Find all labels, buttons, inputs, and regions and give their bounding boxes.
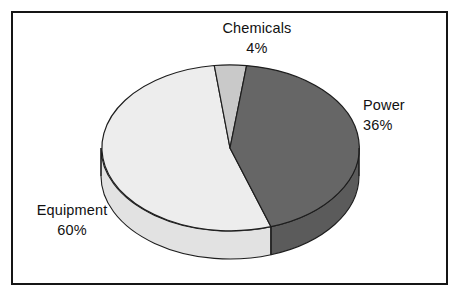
pie-3d-body <box>101 65 359 259</box>
slice-label-chemicals-name: Chemicals <box>205 19 309 38</box>
slice-label-equipment-name: Equipment <box>20 201 124 220</box>
chart-page: Chemicals 4% Power 36% Equipment 60% <box>0 0 459 297</box>
slice-label-chemicals: Chemicals 4% <box>205 19 309 58</box>
slice-label-power: Power 36% <box>363 96 435 135</box>
slice-label-equipment-value: 60% <box>20 221 124 240</box>
slice-label-power-name: Power <box>363 96 435 115</box>
slice-label-power-value: 36% <box>363 116 435 135</box>
slice-label-chemicals-value: 4% <box>205 39 309 58</box>
slice-label-equipment: Equipment 60% <box>20 201 124 240</box>
